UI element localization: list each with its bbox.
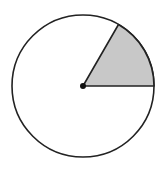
center-point bbox=[80, 83, 86, 89]
circle-sector-diagram bbox=[0, 0, 164, 170]
